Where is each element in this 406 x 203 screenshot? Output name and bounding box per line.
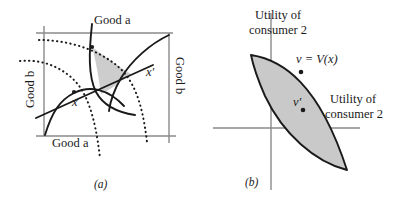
- figure-root: Good a Good a Good b Good b x x′ (a) Uti…: [0, 0, 406, 203]
- panel-a-tag: (a): [94, 178, 107, 190]
- panel-b-vertical-axis-label-line2: consumer 2: [249, 24, 307, 38]
- panel-a-allocation-x-label: x: [72, 96, 78, 110]
- allocation-x-marker: [72, 90, 76, 94]
- panel-a-top-axis-label: Good a: [94, 14, 130, 28]
- point-v-marker: [299, 70, 304, 75]
- panel-b-horizontal-axis-label-line2: consumer 2: [325, 108, 383, 122]
- panel-b-vertical-axis-label-line1: Utility of: [255, 9, 301, 23]
- panel-b-utility-possibility-set: Utility of consumer 2 Utility of consume…: [203, 0, 406, 203]
- panel-a-edgeworth-box: Good a Good a Good b Good b x x′ (a): [0, 0, 203, 203]
- allocation-x-prime-marker: [90, 45, 94, 49]
- consumer-2-indifference-curve-through-x-prime: [39, 40, 147, 142]
- panel-a-allocation-x-prime-label: x′: [146, 66, 154, 80]
- panel-a-bottom-axis-label: Good a: [52, 137, 88, 151]
- panel-b-horizontal-axis-label-line1: Utility of: [330, 93, 376, 107]
- panel-b-point-v-prime-label: v′: [293, 96, 301, 110]
- panel-a-right-axis-label: Good b: [173, 57, 187, 94]
- panel-b-point-v-label: v = V(x): [296, 53, 338, 67]
- panel-b-tag: (b): [245, 176, 258, 188]
- point-v-prime-marker: [301, 108, 306, 113]
- contract-line: [36, 65, 153, 118]
- panel-a-left-axis-label: Good b: [24, 71, 38, 108]
